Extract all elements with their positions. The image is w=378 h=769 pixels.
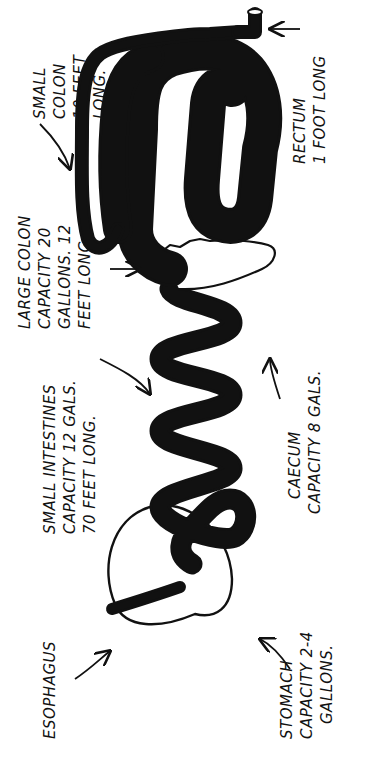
svg-text:FEET LONG.: FEET LONG. [76, 235, 94, 329]
svg-text:RECTUM: RECTUM [291, 98, 309, 164]
svg-text:ESOPHAGUS: ESOPHAGUS [41, 641, 59, 739]
svg-text:CAPACITY 2-4: CAPACITY 2-4 [298, 631, 316, 739]
digestive-tract-diagram: ESOPHAGUS STOMACH CAPACITY 2-4 GALLONS. … [0, 0, 378, 769]
svg-text:70 FEET LONG.: 70 FEET LONG. [81, 415, 99, 534]
svg-text:COLON: COLON [51, 63, 69, 119]
svg-text:LARGE COLON: LARGE COLON [16, 215, 34, 329]
large-colon [113, 52, 264, 269]
small-intestines [160, 289, 246, 564]
svg-text:SMALL: SMALL [31, 67, 49, 119]
svg-text:STOMACH: STOMACH [278, 660, 296, 739]
rectum [238, 9, 262, 32]
label-esophagus: ESOPHAGUS [41, 641, 59, 739]
svg-text:1 FOOT LONG: 1 FOOT LONG [311, 55, 329, 164]
svg-text:GALLONS.: GALLONS. [318, 645, 336, 724]
svg-text:CAPACITY 12 GALS.: CAPACITY 12 GALS. [61, 380, 79, 534]
svg-text:SMALL INTESTINES: SMALL INTESTINES [41, 384, 59, 534]
label-stomach: STOMACH CAPACITY 2-4 GALLONS. [278, 631, 336, 739]
svg-text:CAECUM: CAECUM [286, 431, 304, 499]
label-small-intestines: SMALL INTESTINES CAPACITY 12 GALS. 70 FE… [41, 380, 99, 534]
svg-text:CAPACITY 8 GALS.: CAPACITY 8 GALS. [306, 370, 324, 514]
svg-text:10 FEET: 10 FEET [71, 54, 89, 119]
svg-text:GALLONS. 12: GALLONS. 12 [56, 224, 74, 329]
svg-text:LONG.: LONG. [91, 69, 109, 119]
svg-text:CAPACITY 20: CAPACITY 20 [36, 227, 54, 329]
label-rectum: RECTUM 1 FOOT LONG [291, 55, 329, 164]
label-caecum: CAECUM CAPACITY 8 GALS. [286, 370, 324, 514]
